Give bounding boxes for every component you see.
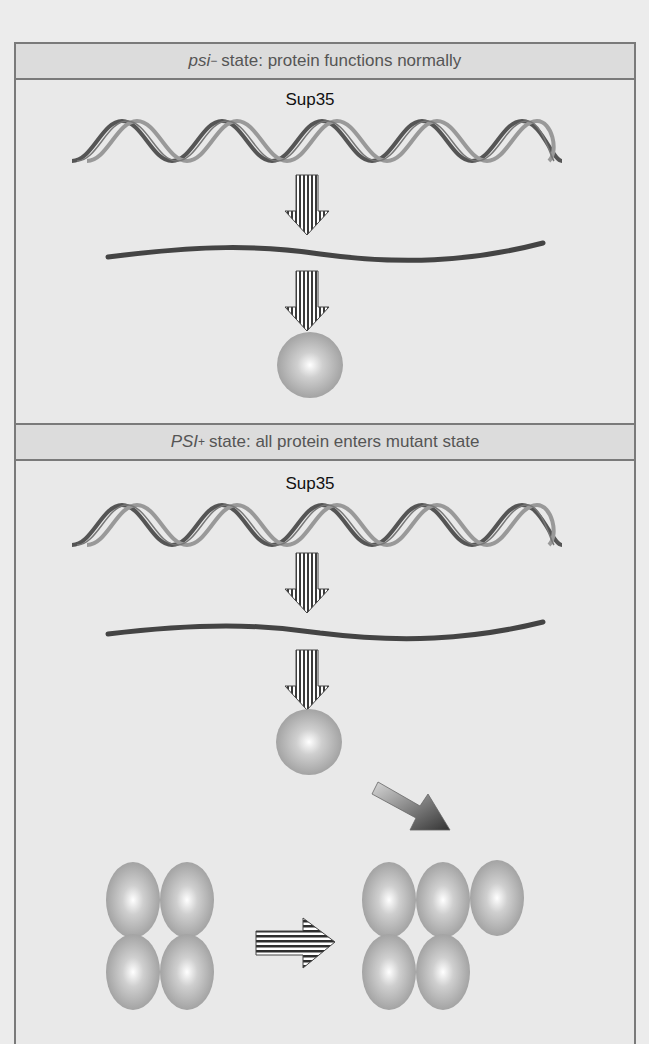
panel-2-dna-helix (72, 505, 562, 545)
panel-1-mrna-strand (108, 243, 543, 260)
panel-2-transcription-arrow-icon (285, 553, 329, 613)
panel-2-protein-monomer (276, 709, 342, 775)
panel-1-protein-monomer (277, 332, 343, 398)
prion-aggregate-5 (362, 860, 524, 1010)
panel-1-translation-arrow-icon (285, 271, 329, 331)
panel-2-translation-arrow-icon (285, 650, 329, 710)
panel-2-mrna-strand (108, 622, 543, 639)
panel-1-dna-helix (72, 121, 562, 161)
aggregate-growth-arrow-icon (256, 918, 335, 968)
prion-aggregate-4 (106, 862, 214, 1010)
panel-1-transcription-arrow-icon (285, 175, 329, 235)
monomer-joining-arrow-icon (372, 782, 450, 830)
